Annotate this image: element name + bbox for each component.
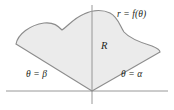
ray-beta-label: θ = β bbox=[26, 70, 47, 80]
polar-region-figure: r = f(θ) R θ = β θ = α bbox=[0, 0, 174, 110]
region-label: R bbox=[101, 41, 108, 52]
figure-canvas bbox=[0, 0, 174, 110]
curve-equation-label: r = f(θ) bbox=[117, 10, 146, 20]
ray-alpha-label: θ = α bbox=[121, 70, 142, 80]
